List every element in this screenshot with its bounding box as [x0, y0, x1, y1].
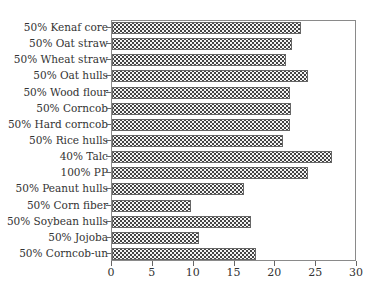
x-tick-label: 30 [341, 266, 371, 279]
category-label: 50% Soybean hulls [7, 215, 108, 227]
bar [112, 54, 286, 66]
bar [112, 119, 290, 131]
category-label: 50% Jojoba [48, 231, 108, 243]
category-label: 50% Corn fiber [27, 199, 108, 211]
bar [112, 183, 244, 195]
y-tick [106, 124, 111, 125]
category-label: 50% Peanut hulls [16, 182, 108, 194]
category-label: 50% Kenaf core [24, 21, 108, 33]
bar [112, 151, 332, 163]
x-tick-label: 20 [259, 266, 289, 279]
bar [112, 103, 291, 115]
bar [112, 216, 251, 228]
bar [112, 22, 301, 34]
category-label: 50% Wheat straw [14, 53, 108, 65]
y-tick [106, 205, 111, 206]
category-label: 50% Rice hulls [29, 134, 108, 146]
y-tick [106, 75, 111, 76]
category-label: 50% Oat hulls [33, 69, 108, 81]
y-tick [106, 188, 111, 189]
category-label: 40% Talc [60, 150, 108, 162]
x-tick-label: 25 [300, 266, 330, 279]
y-tick [106, 237, 111, 238]
y-tick [106, 92, 111, 93]
bar [112, 232, 199, 244]
bar [112, 87, 290, 99]
category-label: 50% Wood flour [23, 86, 108, 98]
category-label: 100% PP [61, 166, 109, 178]
bar [112, 38, 292, 50]
category-label: 50% Corncob-un [19, 247, 108, 259]
y-tick [106, 27, 111, 28]
y-tick [106, 108, 111, 109]
x-tick-label: 0 [96, 266, 126, 279]
category-label: 50% Oat straw [29, 37, 108, 49]
bar [112, 200, 191, 212]
x-tick-label: 15 [219, 266, 249, 279]
x-tick-label: 10 [178, 266, 208, 279]
plot-area [111, 20, 356, 261]
y-tick [106, 43, 111, 44]
y-tick [106, 253, 111, 254]
category-label: 50% Corncob [36, 102, 108, 114]
bar [112, 248, 256, 260]
bar [112, 167, 308, 179]
y-tick [106, 221, 111, 222]
bar [112, 70, 308, 82]
x-tick-label: 5 [137, 266, 167, 279]
y-tick [106, 156, 111, 157]
y-tick [106, 172, 111, 173]
y-tick [106, 140, 111, 141]
bar [112, 135, 283, 147]
y-tick [106, 59, 111, 60]
category-label: 50% Hard corncob [8, 118, 108, 130]
